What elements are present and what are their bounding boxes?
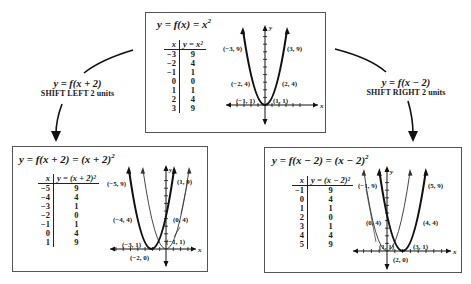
point-label: (−1, 9) [358, 182, 378, 190]
point-label: (1, 1) [379, 243, 395, 251]
point-label: (3, 1) [413, 243, 429, 251]
point-label: (0, 4) [366, 219, 382, 227]
y-axis-label: y [389, 168, 394, 176]
point-label: (2, 0) [393, 256, 409, 264]
point-label: (4, 4) [423, 219, 439, 227]
shifted-parabola-curve [380, 172, 426, 251]
point-label: (5, 9) [428, 182, 444, 190]
shift-right-parabola-graph: y x (−1, 9) (5, 9) (0, 4) (4, 4) (1, 1) … [0, 0, 471, 284]
x-axis-label: x [452, 248, 457, 256]
